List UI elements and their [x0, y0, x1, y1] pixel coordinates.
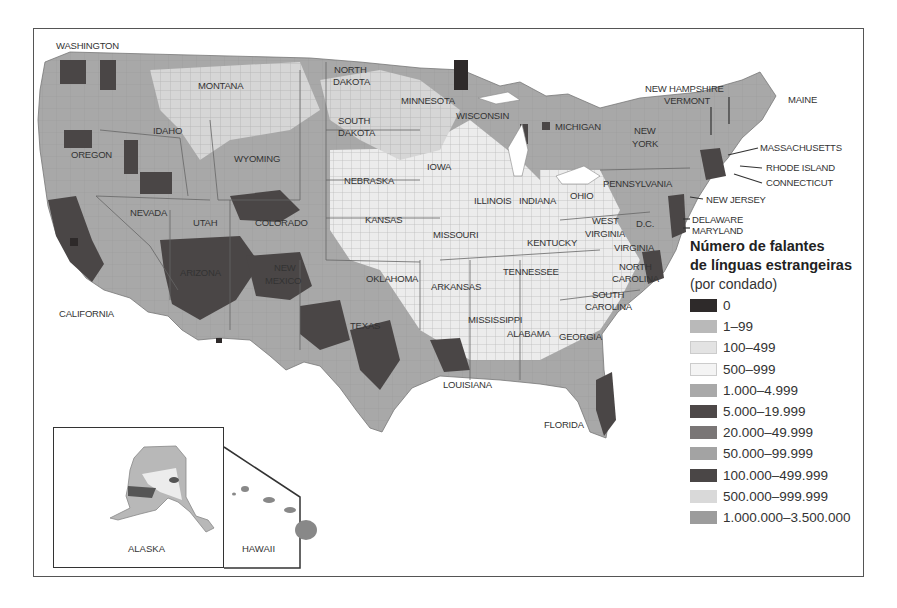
- label-hawaii: HAWAII: [242, 543, 275, 554]
- inset-shapes: [0, 0, 897, 608]
- label-alaska: ALASKA: [128, 543, 165, 554]
